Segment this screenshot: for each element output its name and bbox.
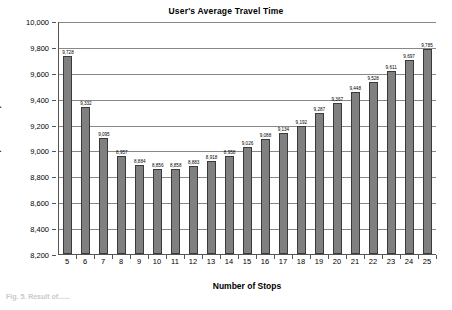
figure-container: User's Average Travel Time Time(in minut… <box>0 0 452 310</box>
x-axis-title: Number of Stops <box>58 281 436 291</box>
bar-slot[interactable]: 8,858 <box>167 22 185 254</box>
bar[interactable] <box>369 82 378 254</box>
x-tick-label: 23 <box>382 257 400 271</box>
bar-value-label: 9,332 <box>80 101 92 106</box>
bar-slot[interactable]: 8,918 <box>203 22 221 254</box>
bar[interactable] <box>63 56 72 254</box>
bar-slot[interactable]: 8,883 <box>185 22 203 254</box>
bar-value-label: 9,088 <box>260 133 272 138</box>
bar-slot[interactable]: 9,367 <box>328 22 346 254</box>
x-tick-label: 12 <box>184 257 202 271</box>
bar[interactable] <box>405 60 414 254</box>
bar[interactable] <box>153 169 162 254</box>
bar[interactable] <box>333 103 342 254</box>
y-tick-label: 9,800 <box>30 43 49 52</box>
bar-value-label: 9,026 <box>242 141 254 146</box>
bar-value-label: 9,367 <box>332 97 344 102</box>
bar-value-label: 9,528 <box>367 76 379 81</box>
bar-slot[interactable]: 9,332 <box>77 22 95 254</box>
y-tick-label: 8,800 <box>30 173 49 182</box>
x-tick-label: 9 <box>130 257 148 271</box>
bar-value-label: 9,134 <box>278 127 290 132</box>
x-tick-label: 19 <box>310 257 328 271</box>
bar-value-label: 8,858 <box>170 163 182 168</box>
y-tick-mark <box>52 255 56 256</box>
x-tick-label: 5 <box>58 257 76 271</box>
bar[interactable] <box>171 169 180 254</box>
y-tick-mark <box>52 151 56 152</box>
x-tick-label: 16 <box>256 257 274 271</box>
y-axis-tick-labels: 10,0009,8009,6009,4009,2009,0008,8008,60… <box>0 22 56 255</box>
bar-value-label: 9,611 <box>386 65 397 70</box>
y-tick-mark <box>52 22 56 23</box>
x-tick-label: 15 <box>238 257 256 271</box>
bar[interactable] <box>279 133 288 254</box>
y-tick-label: 9,000 <box>30 147 49 156</box>
bar[interactable] <box>99 138 108 254</box>
x-tick-label: 18 <box>292 257 310 271</box>
x-tick-label: 14 <box>220 257 238 271</box>
y-tick-label: 10,000 <box>26 18 49 27</box>
bar-slot[interactable]: 9,448 <box>346 22 364 254</box>
bar-slot[interactable]: 9,785 <box>418 22 436 254</box>
bar[interactable] <box>423 49 432 254</box>
bar[interactable] <box>315 113 324 254</box>
bar[interactable] <box>297 126 306 254</box>
bar[interactable] <box>261 139 270 254</box>
y-tick-mark <box>52 100 56 101</box>
bar-value-label: 9,785 <box>421 43 433 48</box>
bar-slot[interactable]: 9,095 <box>95 22 113 254</box>
x-tick-label: 20 <box>328 257 346 271</box>
bar-slot[interactable]: 9,528 <box>364 22 382 254</box>
bar-slot[interactable]: 9,088 <box>256 22 274 254</box>
bar-slot[interactable]: 9,611 <box>382 22 400 254</box>
bar-value-label: 9,095 <box>98 132 110 137</box>
bar-slot[interactable]: 8,884 <box>131 22 149 254</box>
y-tick-label: 8,200 <box>30 251 49 260</box>
bar-value-label: 9,697 <box>403 54 415 59</box>
bar-value-label: 8,884 <box>134 159 146 164</box>
bar[interactable] <box>225 156 234 254</box>
bar-value-label: 8,856 <box>152 163 164 168</box>
bar[interactable] <box>81 107 90 254</box>
bar[interactable] <box>387 71 396 254</box>
bar[interactable] <box>207 161 216 254</box>
bar-slot[interactable]: 8,957 <box>113 22 131 254</box>
bar-slot[interactable]: 9,134 <box>274 22 292 254</box>
bar-slot[interactable]: 9,728 <box>59 22 77 254</box>
bar[interactable] <box>243 147 252 254</box>
bar-value-label: 8,957 <box>116 150 128 155</box>
x-tick-label: 21 <box>346 257 364 271</box>
bar[interactable] <box>351 92 360 254</box>
bar-value-label: 8,883 <box>188 160 200 165</box>
x-tick-label: 7 <box>94 257 112 271</box>
bar-slot[interactable]: 9,697 <box>400 22 418 254</box>
y-tick-mark <box>52 177 56 178</box>
x-tick-label: 13 <box>202 257 220 271</box>
bar-value-label: 9,728 <box>62 50 74 55</box>
y-tick-label: 9,200 <box>30 121 49 130</box>
x-tick-label: 17 <box>274 257 292 271</box>
y-tick-mark <box>52 229 56 230</box>
y-tick-mark <box>52 48 56 49</box>
bar-value-label: 8,958 <box>224 150 236 155</box>
bar-slot[interactable]: 8,856 <box>149 22 167 254</box>
bar[interactable] <box>189 166 198 254</box>
bar-slot[interactable]: 8,958 <box>221 22 239 254</box>
plot-area: 9,7289,3329,0958,9578,8848,8568,8588,883… <box>58 22 436 255</box>
chart-title: User's Average Travel Time <box>0 6 452 16</box>
x-tick-label: 22 <box>364 257 382 271</box>
y-tick-mark <box>52 203 56 204</box>
x-tick-label: 24 <box>400 257 418 271</box>
bar[interactable] <box>135 165 144 254</box>
bar-slot[interactable]: 9,192 <box>292 22 310 254</box>
bar-slot[interactable]: 9,287 <box>310 22 328 254</box>
y-tick-label: 9,600 <box>30 69 49 78</box>
bar[interactable] <box>117 156 126 254</box>
bar-series: 9,7289,3329,0958,9578,8848,8568,8588,883… <box>59 22 436 254</box>
bar-value-label: 9,192 <box>296 120 308 125</box>
bar-slot[interactable]: 9,026 <box>239 22 257 254</box>
x-tick-label: 11 <box>166 257 184 271</box>
y-tick-mark <box>52 126 56 127</box>
y-tick-label: 9,400 <box>30 95 49 104</box>
